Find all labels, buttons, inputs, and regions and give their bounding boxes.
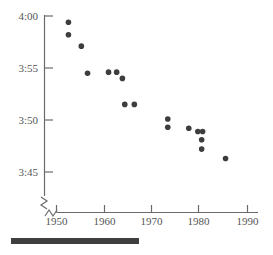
y-tick-label-2: 3:55: [4, 62, 38, 74]
data-point: [132, 102, 138, 108]
y-axis-break-icon: [41, 197, 47, 209]
data-point: [85, 70, 91, 76]
data-point: [200, 129, 206, 135]
data-point: [165, 116, 171, 122]
data-point: [79, 43, 85, 49]
data-point: [106, 69, 112, 75]
x-tick-label-1: 1950: [36, 215, 77, 227]
data-point: [66, 19, 72, 25]
y-axis-ticks: [45, 16, 54, 172]
scatter-chart-figure: 4:00 3:55 3:50 3:45 1950 1960 1970 1980 …: [0, 0, 273, 255]
data-point: [66, 32, 72, 38]
data-point: [199, 146, 205, 152]
x-tick-label-2: 1960: [84, 215, 125, 227]
data-point: [186, 126, 192, 132]
data-point: [199, 137, 205, 143]
y-tick-label-3: 3:50: [4, 114, 38, 126]
data-point: [122, 102, 128, 108]
data-point: [114, 69, 120, 75]
x-tick-label-4: 1980: [178, 215, 219, 227]
caption-rule: [11, 238, 139, 244]
x-axis-ticks: [57, 205, 248, 213]
data-point-group: [66, 19, 229, 161]
data-point: [195, 129, 201, 135]
data-point: [120, 76, 126, 82]
x-tick-label-5: 1990: [227, 215, 268, 227]
data-point: [223, 156, 229, 162]
x-tick-label-3: 1970: [131, 215, 172, 227]
data-point: [165, 124, 171, 130]
y-tick-label-1: 4:00: [4, 10, 38, 22]
y-tick-label-4: 3:45: [4, 166, 38, 178]
